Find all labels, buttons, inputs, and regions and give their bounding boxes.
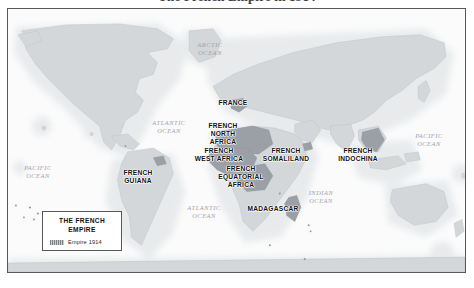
legend-entry-empire-1914: Empire 1914 — [49, 239, 115, 245]
map-legend: THE FRENCH EMPIRE Empire 1914 — [42, 211, 122, 251]
legend-title: THE FRENCH EMPIRE — [49, 217, 115, 234]
page-title-strip: The French Empire in 1914 — [0, 0, 474, 8]
legend-entry-label: Empire 1914 — [68, 239, 102, 245]
empire-1914-swatch — [50, 240, 64, 245]
page-title: The French Empire in 1914 — [158, 0, 316, 5]
